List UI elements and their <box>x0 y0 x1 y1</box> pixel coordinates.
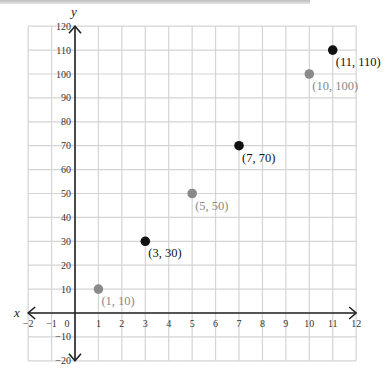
point-marker <box>187 189 197 199</box>
point-marker <box>94 284 104 294</box>
x-tick-label: 10 <box>304 318 314 329</box>
x-axis-label: x <box>13 305 20 320</box>
data-point: (3, 30) <box>140 237 181 261</box>
point-label: (5, 50) <box>195 199 228 213</box>
y-tick-label: −10 <box>55 331 71 342</box>
y-tick-label: 20 <box>61 260 71 271</box>
x-tick-label: 3 <box>143 318 148 329</box>
data-points: (1, 10)(3, 30)(5, 50)(7, 70)(10, 100)(11… <box>94 45 381 308</box>
data-point: (5, 50) <box>187 189 228 213</box>
y-tick-label: 120 <box>56 21 71 32</box>
x-tick-label: 2 <box>119 318 124 329</box>
y-tick-label: 60 <box>61 164 71 175</box>
y-axis-label: y <box>69 4 77 19</box>
point-marker <box>305 69 315 79</box>
data-point: (10, 100) <box>305 69 359 93</box>
x-tick-label: 5 <box>190 318 195 329</box>
x-tick-label: 8 <box>260 318 265 329</box>
data-point: (11, 110) <box>328 45 381 69</box>
y-tick-label: 10 <box>61 284 71 295</box>
x-tick-label: −2 <box>23 318 34 329</box>
x-tick-label: −1 <box>46 318 57 329</box>
x-tick-label: 9 <box>283 318 288 329</box>
y-tick-label: 40 <box>61 212 71 223</box>
point-marker <box>234 141 244 151</box>
y-tick-label: 70 <box>61 140 71 151</box>
x-tick-label: 1 <box>96 318 101 329</box>
x-tick-label: 12 <box>351 318 361 329</box>
point-label: (3, 30) <box>148 246 181 260</box>
y-tick-label: 30 <box>61 236 71 247</box>
y-tick-label: 100 <box>56 69 71 80</box>
point-label: (1, 10) <box>101 294 134 308</box>
data-point: (7, 70) <box>234 141 275 165</box>
scatter-chart: −2−1012345678910111212011010090807060504… <box>0 0 390 384</box>
y-tick-label: −20 <box>55 355 71 366</box>
y-tick-label: 50 <box>61 188 71 199</box>
x-tick-label: 4 <box>166 318 171 329</box>
y-tick-label: 80 <box>61 116 71 127</box>
point-label: (10, 100) <box>312 79 358 93</box>
x-tick-label: 7 <box>237 318 242 329</box>
data-point: (1, 10) <box>94 284 135 308</box>
y-tick-label: 90 <box>61 92 71 103</box>
point-label: (7, 70) <box>242 151 275 165</box>
point-marker <box>140 237 150 247</box>
y-tick-label: 110 <box>56 45 71 56</box>
point-marker <box>328 45 338 55</box>
x-tick-label: 11 <box>328 318 338 329</box>
x-tick-label: 6 <box>213 318 218 329</box>
x-tick-label: 0 <box>65 318 70 329</box>
point-label: (11, 110) <box>336 55 381 69</box>
